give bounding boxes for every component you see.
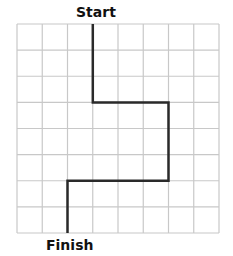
grid-lines [17,24,219,233]
grid-diagram [0,0,233,256]
finish-label: Finish [46,238,93,252]
